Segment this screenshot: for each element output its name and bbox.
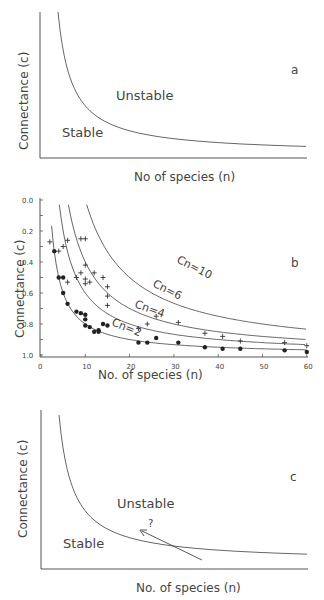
data-point-dot	[52, 249, 56, 253]
data-point-cross	[83, 277, 88, 282]
data-point-cross	[105, 303, 110, 308]
data-point-cross	[83, 281, 88, 286]
panel-a: Unstable Stable a Connectance (c) No of …	[17, 12, 307, 184]
x-tick-label: 0	[38, 363, 42, 371]
x-axis-label: No. of species (n)	[136, 581, 241, 595]
data-point-cross	[87, 280, 92, 285]
y-axis-label: Connectance (c)	[16, 440, 30, 538]
y-tick-label: 0.0	[22, 197, 33, 205]
data-point-dot	[154, 336, 158, 340]
curve-Cn=4	[59, 205, 305, 345]
data-point-dot	[88, 325, 92, 329]
curve-label-cn2: Cn=2	[110, 316, 143, 340]
curve-label-cn10: Cn=10	[175, 253, 215, 282]
panel-letter: b	[291, 256, 299, 270]
x-axis-label: No. of species (n)	[98, 368, 203, 382]
data-point-dot	[203, 345, 207, 349]
x-tick-label: 40	[215, 363, 224, 371]
curve-Cn=6	[68, 205, 305, 340]
data-point-cross	[282, 340, 287, 345]
stability-curve	[59, 415, 307, 554]
data-point-dot	[83, 317, 87, 321]
y-tick-label: 1.0	[22, 352, 33, 360]
data-point-cross	[145, 322, 150, 327]
curve-label-cn6: Cn=6	[151, 277, 184, 303]
x-tick-label: 60	[304, 363, 313, 371]
data-point-dot	[83, 313, 87, 317]
question-mark: ?	[148, 518, 153, 529]
data-point-dot	[57, 275, 61, 279]
data-point-dot	[136, 340, 140, 344]
data-point-cross	[304, 343, 309, 348]
y-axis-label: Connectance (c)	[13, 240, 27, 338]
unstable-label: Unstable	[117, 496, 174, 511]
data-point-cross	[65, 238, 70, 243]
data-point-cross	[78, 270, 83, 275]
data-point-cross	[47, 239, 52, 244]
data-point-dot	[74, 309, 78, 313]
data-point-dot	[282, 348, 286, 352]
data-point-dot	[83, 323, 87, 327]
x-tick-label: 50	[260, 363, 269, 371]
data-point-dot	[101, 322, 105, 326]
stable-label: Stable	[63, 536, 104, 551]
y-axis-label: Connectance (c)	[17, 52, 31, 150]
data-point-cross	[56, 249, 61, 254]
x-axis-label: No of species (n)	[134, 170, 235, 184]
y-tick-label: 0.2	[22, 228, 33, 236]
data-point-dot	[61, 275, 65, 279]
data-point-dot	[220, 347, 224, 351]
data-point-cross	[74, 275, 79, 280]
panel-letter: a	[291, 63, 298, 77]
panel-b: 01020304050601.00.80.60.40.20.0 Cn=10 Cn…	[13, 197, 313, 383]
data-point-cross	[83, 236, 88, 241]
panel-letter: c	[290, 470, 297, 484]
panel-c: ? Unstable Stable c Connectance (c) No. …	[16, 410, 308, 595]
data-point-dot	[92, 330, 96, 334]
data-point-dot	[96, 330, 100, 334]
data-point-dot	[238, 347, 242, 351]
data-point-dot	[79, 311, 83, 315]
data-point-cross	[65, 280, 70, 285]
data-point-dot	[176, 340, 180, 344]
data-point-dot	[65, 302, 69, 306]
stable-label: Stable	[62, 125, 103, 140]
data-point-cross	[61, 244, 66, 249]
data-point-cross	[78, 236, 83, 241]
x-tick-label: 10	[82, 363, 91, 371]
unstable-label: Unstable	[116, 88, 173, 103]
figure: Unstable Stable a Connectance (c) No of …	[0, 0, 324, 600]
data-point-cross	[83, 263, 88, 268]
data-point-cross	[238, 339, 243, 344]
data-point-dot	[105, 323, 109, 327]
data-point-dot	[145, 340, 149, 344]
data-point-cross	[220, 334, 225, 339]
data-point-cross	[202, 331, 207, 336]
data-point-cross	[105, 284, 110, 289]
data-point-dot	[305, 350, 309, 354]
arrow-line	[142, 531, 202, 560]
data-point-dot	[61, 291, 65, 295]
data-point-cross	[101, 275, 106, 280]
